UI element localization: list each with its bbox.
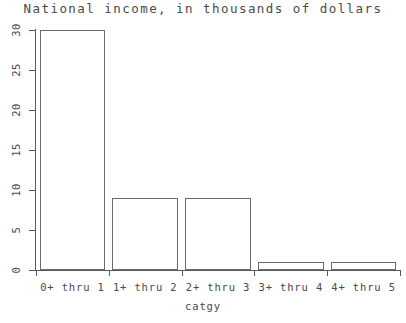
x-tick-mark (109, 271, 110, 276)
x-tick-mark (182, 271, 183, 276)
bar (185, 198, 251, 270)
x-axis-title: catgy (0, 300, 406, 312)
x-tick-label: 4+ thru 5 (327, 281, 400, 293)
y-tick-mark (29, 70, 36, 71)
x-axis-line (35, 270, 401, 271)
x-tick-label: 0+ thru 1 (36, 281, 109, 293)
y-tick-mark (29, 110, 36, 111)
y-tick-label: 5 (6, 224, 26, 236)
y-tick-label: 25 (6, 64, 26, 76)
bar (331, 262, 397, 270)
x-tick-label: 1+ thru 2 (109, 281, 182, 293)
y-tick-label: 30 (6, 24, 26, 36)
histogram-chart: National income, in thousands of dollars… (0, 0, 406, 323)
x-tick-label: 3+ thru 4 (254, 281, 327, 293)
x-tick-mark (254, 271, 255, 276)
y-tick-label: 20 (6, 104, 26, 116)
y-tick-mark (29, 270, 36, 271)
y-tick-label: 10 (6, 184, 26, 196)
x-tick-mark (327, 271, 328, 276)
x-tick-mark (400, 271, 401, 276)
y-tick-label: 0 (6, 264, 26, 276)
x-tick-mark (36, 271, 37, 276)
bar (258, 262, 324, 270)
x-tick-label: 2+ thru 3 (182, 281, 255, 293)
y-tick-mark (29, 30, 36, 31)
y-tick-mark (29, 230, 36, 231)
chart-title: National income, in thousands of dollars (0, 1, 406, 16)
y-tick-mark (29, 190, 36, 191)
bar (112, 198, 178, 270)
bar (40, 30, 106, 270)
y-tick-mark (29, 150, 36, 151)
y-tick-label: 15 (6, 144, 26, 156)
